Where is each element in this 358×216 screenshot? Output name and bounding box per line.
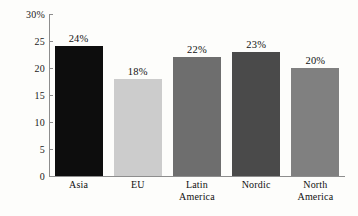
x-axis-line — [49, 176, 345, 177]
bar-value-label: 20% — [305, 55, 325, 66]
bar-group[interactable]: 20% — [291, 14, 339, 176]
bar[interactable] — [173, 57, 221, 176]
bar[interactable] — [114, 79, 162, 176]
bar-group[interactable]: 22% — [173, 14, 221, 176]
y-tick-label: 30% — [1, 9, 45, 20]
y-tick-label: 25 — [1, 36, 45, 47]
bar-group[interactable]: 23% — [232, 14, 280, 176]
y-tick-label: 10 — [1, 117, 45, 128]
x-axis-label-line: America — [286, 191, 345, 203]
x-axis-label: Asia — [49, 179, 108, 191]
x-axis-label: Nordic — [227, 179, 286, 191]
x-axis-label-line: Latin — [167, 179, 226, 191]
bar-value-label: 18% — [128, 66, 148, 77]
x-axis-label: EU — [108, 179, 167, 191]
x-axis-label-line: EU — [108, 179, 167, 191]
y-tick-label: 0 — [1, 171, 45, 182]
bar-value-label: 23% — [246, 39, 266, 50]
bar-series: 24%18%22%23%20% — [49, 14, 345, 176]
y-tick-label: 20 — [1, 63, 45, 74]
bar[interactable] — [55, 46, 103, 176]
x-axis-label: NorthAmerica — [286, 179, 345, 202]
bar[interactable] — [232, 52, 280, 176]
x-axis-label-line: America — [167, 191, 226, 203]
bar-value-label: 24% — [69, 33, 89, 44]
bar-group[interactable]: 18% — [114, 14, 162, 176]
x-axis-label-line: Nordic — [227, 179, 286, 191]
y-tick — [49, 176, 53, 177]
y-tick-label: 15 — [1, 90, 45, 101]
y-tick-label: 5 — [1, 144, 45, 155]
x-axis-label-line: North — [286, 179, 345, 191]
x-axis-label-line: Asia — [49, 179, 108, 191]
bar[interactable] — [291, 68, 339, 176]
bar-value-label: 22% — [187, 44, 207, 55]
bar-group[interactable]: 24% — [55, 14, 103, 176]
x-axis-label: LatinAmerica — [167, 179, 226, 202]
bar-chart: 051015202530% 24%18%22%23%20% AsiaEULati… — [0, 0, 358, 216]
